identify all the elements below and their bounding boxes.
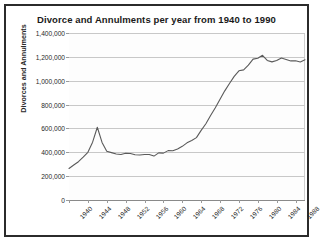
y-axis-tick-label: 200,000 bbox=[41, 173, 65, 180]
x-axis-tickmark bbox=[145, 200, 146, 203]
x-axis-tick-label: 1968 bbox=[210, 205, 225, 220]
x-axis-tick-label: 1972 bbox=[229, 205, 244, 220]
x-axis-tickmark bbox=[277, 200, 278, 203]
x-axis-tickmark bbox=[220, 200, 221, 203]
x-axis-tickmark bbox=[69, 200, 70, 203]
x-axis-tickmark bbox=[201, 200, 202, 203]
x-axis-tickmark bbox=[107, 200, 108, 203]
y-axis-tick-label: 800,000 bbox=[41, 101, 65, 108]
x-axis-tickmark bbox=[88, 200, 89, 203]
plot-region: 1,400,0001,200,0001,000,000800,000600,00… bbox=[69, 33, 305, 200]
x-axis-tick-label: 1944 bbox=[97, 205, 112, 220]
gridline bbox=[69, 200, 305, 201]
x-axis-tick-label: 1976 bbox=[248, 205, 263, 220]
x-axis-tick-label: 1964 bbox=[192, 205, 207, 220]
x-axis-tickmark bbox=[182, 200, 183, 203]
x-axis-tick-label: 1984 bbox=[286, 205, 301, 220]
x-axis-tick-label: 1948 bbox=[116, 205, 131, 220]
data-series-line bbox=[69, 33, 305, 200]
y-axis-tick-label: 1,000,000 bbox=[36, 77, 65, 84]
y-axis-tick-label: 400,000 bbox=[41, 149, 65, 156]
x-axis-tick-label: 1940 bbox=[78, 205, 93, 220]
x-axis-tick-label: 1956 bbox=[154, 205, 169, 220]
x-axis-tickmark bbox=[239, 200, 240, 203]
y-axis-tick-label: 1,200,000 bbox=[36, 53, 65, 60]
y-axis-title: Divorces and Annulments bbox=[19, 14, 28, 124]
chart-title: Divorce and Annulments per year from 194… bbox=[6, 14, 307, 25]
x-axis-tickmark bbox=[296, 200, 297, 203]
x-axis-tickmark bbox=[163, 200, 164, 203]
x-axis-tick-label: 1980 bbox=[267, 205, 282, 220]
series-polyline bbox=[69, 55, 305, 168]
y-axis-tick-label: 0 bbox=[61, 197, 65, 204]
y-axis-tick-label: 600,000 bbox=[41, 125, 65, 132]
chart-frame: Divorce and Annulments per year from 194… bbox=[4, 4, 309, 237]
x-axis-tick-label: 1952 bbox=[135, 205, 150, 220]
x-axis-tickmark bbox=[258, 200, 259, 203]
x-axis-tickmark bbox=[126, 200, 127, 203]
y-axis-tick-label: 1,400,000 bbox=[36, 30, 65, 37]
x-axis-tick-label: 1960 bbox=[173, 205, 188, 220]
x-axis-tick-label: 1988 bbox=[305, 205, 319, 220]
